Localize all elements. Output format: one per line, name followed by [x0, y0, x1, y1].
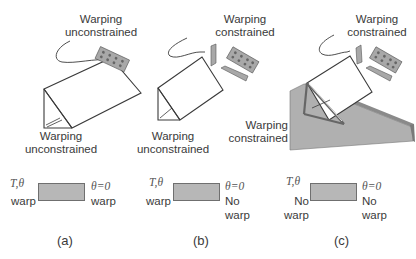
panel-c-caption: (c) [334, 233, 349, 248]
text-line: No [362, 194, 387, 208]
label-line: constrained [342, 26, 412, 39]
panel-a-left-text: warp [11, 194, 36, 208]
panel-b-bottom-label: Warping unconstrained [130, 130, 216, 156]
label-line: Warping [16, 130, 106, 143]
panel-a-right-text: warp [91, 194, 116, 208]
panel-a-beam-element [38, 183, 85, 201]
text-line: warp [91, 194, 116, 208]
text-line: warp [362, 208, 387, 222]
panel-a-left-symbol: T,θ [10, 177, 24, 189]
text-line: warp [146, 194, 171, 208]
panel-a-caption: (a) [57, 233, 73, 248]
text-line: warp [11, 194, 36, 208]
label-line: Warping [226, 119, 288, 132]
panel-c-left-symbol: T,θ [286, 175, 300, 187]
panel-c-beam-element [310, 183, 357, 201]
panel-b-right-symbol: θ=0 [225, 180, 244, 192]
panel-c-left-text: No warp [283, 194, 309, 222]
label-line: unconstrained [56, 26, 146, 39]
label-line: Warping [342, 13, 412, 26]
panel-b-left-symbol: T,θ [149, 176, 163, 188]
panel-b-right-text: No warp [225, 194, 250, 222]
text-line: No [283, 194, 309, 208]
label-line: Warping [205, 13, 285, 26]
panel-c-right-symbol: θ=0 [362, 180, 381, 192]
label-line: unconstrained [16, 143, 106, 156]
panel-a-drawing [44, 41, 141, 128]
panel-a-bottom-label: Warping unconstrained [16, 130, 106, 156]
panel-b-caption: (b) [193, 233, 209, 248]
label-line: Warping [56, 13, 146, 26]
text-line: warp [225, 208, 250, 222]
panel-b-top-label: Warping constrained [205, 13, 285, 39]
panel-c-right-text: No warp [362, 194, 387, 222]
text-line: warp [283, 208, 309, 222]
label-line: constrained [226, 132, 288, 145]
panel-c-drawing [290, 35, 415, 150]
panel-a-right-symbol: θ=0 [91, 180, 110, 192]
panel-c-top-label: Warping constrained [342, 13, 412, 39]
text-line: No [225, 194, 250, 208]
panel-b-beam-element [173, 183, 220, 201]
panel-a-top-label: Warping unconstrained [56, 13, 146, 39]
label-line: unconstrained [130, 143, 216, 156]
label-line: constrained [205, 26, 285, 39]
panel-b-drawing [158, 38, 259, 120]
label-line: Warping [130, 130, 216, 143]
panel-b-left-text: warp [146, 194, 171, 208]
panel-c-bottom-label: Warping constrained [226, 119, 288, 145]
